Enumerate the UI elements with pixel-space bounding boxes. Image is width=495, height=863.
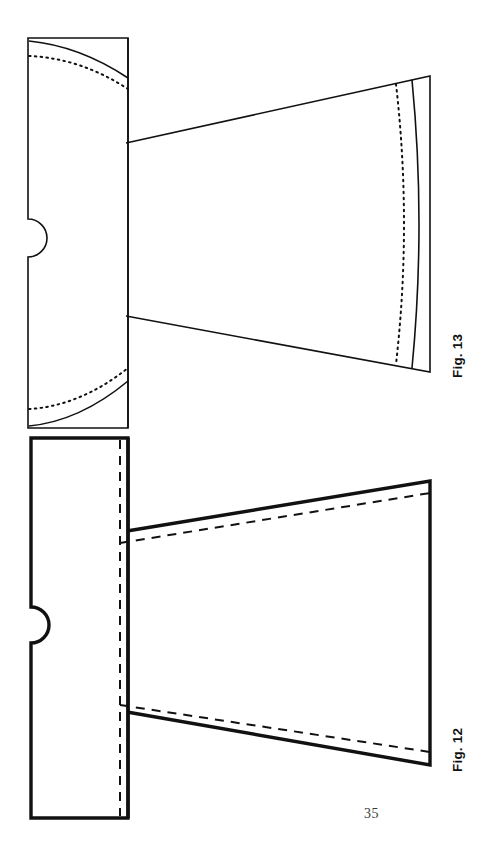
page-number: 35 bbox=[364, 806, 379, 822]
fig-12-label: Fig. 12 bbox=[450, 728, 465, 772]
figure-13-group bbox=[28, 38, 430, 428]
fig13-panel-curve-top-solid bbox=[29, 41, 128, 78]
fig13-panel-curve-bottom-dotted bbox=[29, 368, 128, 409]
fig13-flare-arc-dotted bbox=[396, 84, 404, 364]
page-canvas: Fig. 13 Fig. 12 35 bbox=[0, 0, 495, 863]
fig-13-label: Fig. 13 bbox=[450, 334, 465, 378]
fig13-panel-curve-bottom-solid bbox=[29, 381, 128, 426]
technical-drawing: Fig. 13 Fig. 12 bbox=[0, 0, 495, 863]
fig12-flare-outline bbox=[127, 481, 430, 765]
fig13-flare-outline bbox=[126, 76, 430, 372]
fig12-flare-dashed-top bbox=[120, 493, 430, 543]
figure-12-dashed-group bbox=[120, 440, 430, 816]
figure-12-group bbox=[31, 438, 430, 818]
fig12-panel-outline bbox=[31, 438, 128, 818]
fig13-panel-outline bbox=[28, 38, 128, 428]
fig12-flare-dashed-bottom bbox=[120, 705, 430, 752]
fig13-panel-curve-top-dotted bbox=[29, 56, 128, 89]
fig13-flare-arc-solid bbox=[412, 80, 419, 368]
